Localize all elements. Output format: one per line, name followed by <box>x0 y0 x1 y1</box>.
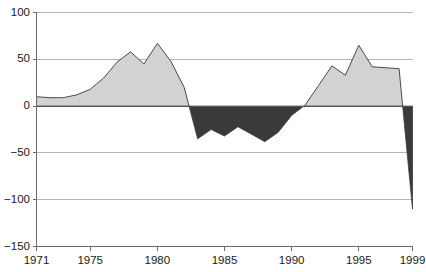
y-axis-tick-label: 50 <box>0 53 30 64</box>
x-axis-tick-label: 1995 <box>339 254 379 266</box>
x-axis-tick-label: 1980 <box>137 254 177 266</box>
y-axis-tick-label: −100 <box>0 194 30 205</box>
x-axis-tick-label: 1975 <box>70 254 110 266</box>
x-axis-tick-label: 1999 <box>393 254 426 266</box>
y-axis-tick-label: −150 <box>0 241 30 252</box>
x-axis-tick-label: 1990 <box>272 254 312 266</box>
chart-plot-area <box>0 0 426 272</box>
area-chart: 100500−50−100−15019711975198019851990199… <box>0 0 426 272</box>
y-axis-tick-label: 100 <box>0 7 30 18</box>
data-areas <box>37 43 413 209</box>
y-axis-tick-label: −50 <box>0 147 30 158</box>
y-axis-tick-label: 0 <box>0 100 30 111</box>
x-axis-tick-label: 1985 <box>205 254 245 266</box>
x-axis-tick-label: 1971 <box>17 254 57 266</box>
